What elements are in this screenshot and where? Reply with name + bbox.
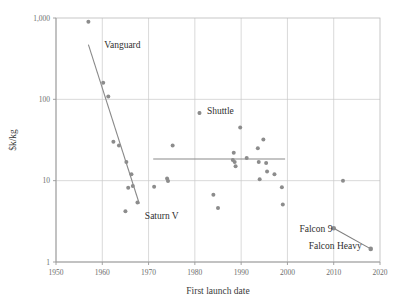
data-point (111, 140, 115, 144)
data-point (135, 200, 139, 204)
annotation-falcon-9: Falcon 9 (299, 224, 332, 234)
data-point (281, 202, 285, 206)
data-point (101, 81, 105, 85)
series-annotations: VanguardShuttleSaturn VFalcon 9Falcon He… (104, 40, 362, 251)
data-point (126, 186, 130, 190)
data-point (171, 144, 175, 148)
x-tick-label: 1970 (141, 268, 156, 277)
annotation-vanguard: Vanguard (104, 40, 141, 50)
data-point (257, 160, 261, 164)
data-point (131, 184, 135, 188)
x-axis-title: First launch date (186, 286, 249, 296)
data-point (123, 209, 127, 213)
data-point (166, 179, 170, 183)
data-point (245, 156, 249, 160)
data-point (234, 164, 238, 168)
data-points (86, 20, 373, 251)
data-point (152, 185, 156, 189)
data-point (238, 126, 242, 130)
data-point (117, 144, 121, 148)
annotation-saturn-v: Saturn V (145, 211, 179, 221)
data-point (264, 161, 268, 165)
y-axis-tick-labels: 1101001,000 (33, 14, 50, 267)
x-tick-label: 2000 (280, 268, 295, 277)
chart-figure: 19501960197019801990200020102020 1101001… (0, 0, 402, 307)
scatter-plot: 19501960197019801990200020102020 1101001… (0, 0, 402, 307)
x-tick-label: 1960 (95, 268, 110, 277)
x-tick-label: 2020 (373, 268, 388, 277)
data-point (124, 160, 128, 164)
y-tick-label: 1,000 (33, 14, 50, 23)
data-point (129, 172, 133, 176)
data-point (265, 169, 269, 173)
x-tick-label: 2010 (326, 268, 341, 277)
data-point (261, 138, 265, 142)
x-tick-label: 1950 (49, 268, 64, 277)
data-point (280, 185, 284, 189)
annotation-falcon-heavy: Falcon Heavy (309, 241, 362, 251)
data-point (211, 193, 215, 197)
data-point (341, 179, 345, 183)
early-decline-trend (88, 45, 139, 204)
y-tick-label: 10 (43, 176, 51, 185)
y-axis-title: $k/kg (8, 129, 18, 151)
annotation-shuttle: Shuttle (207, 106, 234, 116)
data-point (256, 146, 260, 150)
data-point (106, 95, 110, 99)
x-axis-tick-labels: 19501960197019801990200020102020 (49, 268, 388, 277)
x-tick-label: 1990 (234, 268, 249, 277)
data-point (86, 20, 90, 24)
shuttle-legend-marker (198, 111, 201, 114)
falcon-heavy-point (368, 247, 373, 252)
x-tick-label: 1980 (187, 268, 202, 277)
y-tick-label: 100 (39, 95, 51, 104)
y-tick-label: 1 (46, 258, 50, 267)
data-point (232, 151, 236, 155)
trend-lines (88, 45, 285, 204)
data-point (233, 160, 237, 164)
data-point (216, 206, 220, 210)
data-point (258, 177, 262, 181)
data-point (272, 172, 276, 176)
